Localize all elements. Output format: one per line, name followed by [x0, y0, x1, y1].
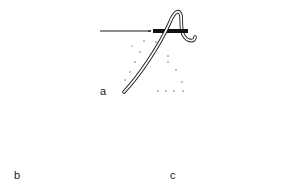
panel-a-label: a: [100, 86, 106, 97]
panel-b-label: b: [14, 170, 20, 181]
panel-c-label: c: [170, 170, 176, 181]
panel-a: [100, 12, 195, 92]
